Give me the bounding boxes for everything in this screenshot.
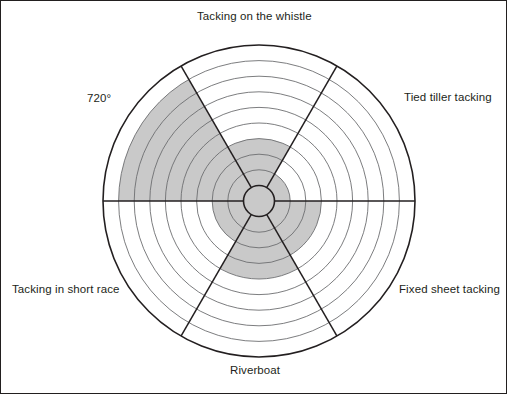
radar-hub-circle	[244, 186, 275, 217]
radar-chart	[0, 0, 507, 394]
radar-wedge	[119, 79, 252, 201]
radar-shaded-wedges	[119, 79, 322, 279]
axis-label-riverboat: Riverboat	[230, 364, 280, 377]
axis-label-tied-tiller-tacking: Tied tiller tacking	[404, 91, 492, 104]
chart-page: Tacking on the whistle Tied tiller tacki…	[0, 0, 507, 394]
axis-label-tacking-in-short-race: Tacking in short race	[12, 283, 120, 296]
axis-label-720-degrees: 720°	[87, 92, 111, 105]
axis-label-tacking-on-the-whistle: Tacking on the whistle	[197, 10, 312, 23]
axis-label-fixed-sheet-tacking: Fixed sheet tacking	[399, 283, 500, 296]
